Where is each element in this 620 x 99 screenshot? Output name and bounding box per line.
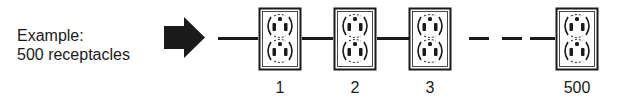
wire-segment: [302, 37, 333, 40]
receptacle-number: 2: [325, 79, 385, 97]
wire-segment: [377, 37, 409, 40]
wire-dash: [530, 37, 555, 40]
duplex-receptacle-icon: [555, 7, 599, 71]
right-arrow-icon: [164, 17, 206, 59]
receptacle-number: 1: [250, 79, 310, 97]
wire-dash: [469, 37, 489, 40]
duplex-receptacle-icon: [258, 7, 302, 71]
duplex-receptacle-icon: [408, 7, 452, 71]
wire-segment: [218, 37, 258, 40]
receptacle-number: 500: [547, 79, 607, 97]
example-caption: Example: 500 receptacles: [17, 26, 130, 64]
caption-line-1: Example:: [17, 26, 130, 45]
wire-dash: [502, 37, 522, 40]
caption-line-2: 500 receptacles: [17, 45, 130, 64]
receptacle-number: 3: [400, 79, 460, 97]
duplex-receptacle-icon: [333, 7, 377, 71]
